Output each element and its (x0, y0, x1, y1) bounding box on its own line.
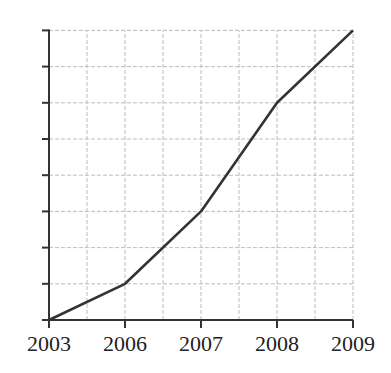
x-tick-label: 2009 (331, 331, 375, 357)
x-tick-label: 2007 (179, 331, 223, 357)
line-chart (0, 0, 391, 373)
x-tick-label: 2003 (27, 331, 71, 357)
x-tick-label: 2006 (103, 331, 147, 357)
x-tick-label: 2008 (255, 331, 299, 357)
